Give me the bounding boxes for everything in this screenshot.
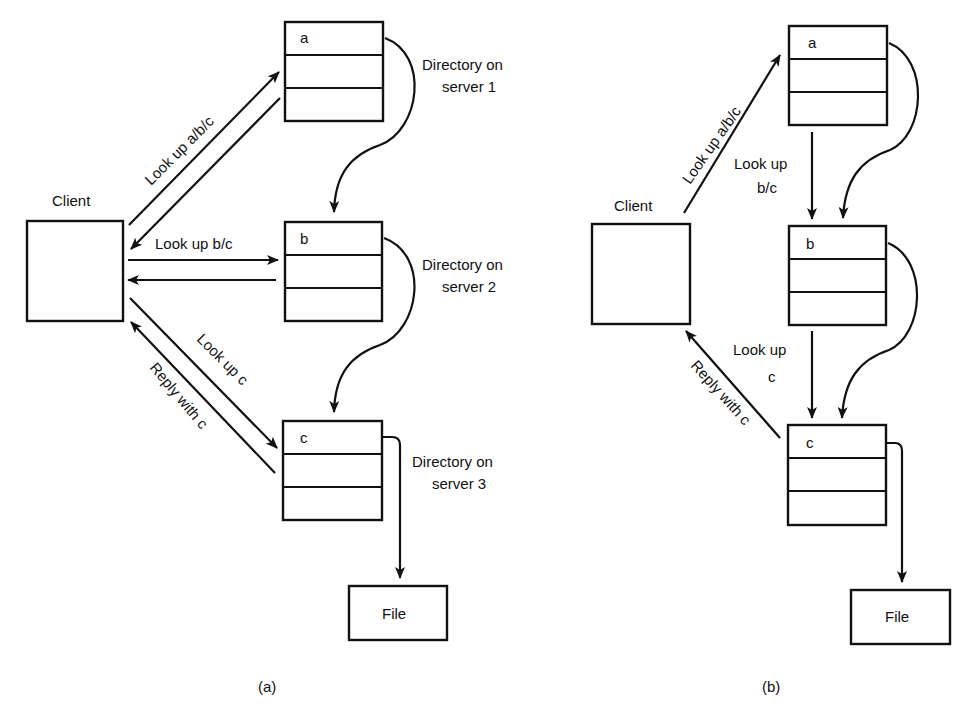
client-box-b bbox=[592, 224, 690, 324]
label-b-lookup-c-2: c bbox=[768, 368, 776, 385]
link-b-c-to-file bbox=[887, 443, 902, 582]
entry-c-b: c bbox=[806, 434, 814, 451]
link-c-to-file bbox=[383, 437, 400, 578]
client-label: Client bbox=[52, 192, 91, 209]
panel-a: Client a Directory on server 1 b Directo… bbox=[27, 22, 503, 695]
arrow-lookup-abc bbox=[129, 72, 279, 225]
client-box bbox=[27, 221, 123, 321]
directory-server-2: b bbox=[285, 222, 382, 321]
label-b-lookup-bc-2: b/c bbox=[757, 179, 778, 196]
directory-label-2b: server 2 bbox=[442, 278, 496, 295]
directory-server-1: a bbox=[285, 22, 383, 121]
file-label-b: File bbox=[885, 608, 909, 625]
directory-server-3: c bbox=[283, 421, 382, 520]
directory-b-b: b bbox=[789, 226, 886, 325]
caption-b: (b) bbox=[762, 678, 780, 695]
entry-a: a bbox=[300, 29, 309, 46]
label-b-lookup-abc: Look up a/b/c bbox=[679, 103, 745, 187]
client-label-b: Client bbox=[614, 197, 653, 214]
label-lookup-c: Look up c bbox=[194, 330, 252, 388]
directory-b-c: c bbox=[788, 425, 886, 525]
entry-c: c bbox=[300, 429, 308, 446]
directory-b-a: a bbox=[789, 26, 887, 125]
label-lookup-abc: Look up a/b/c bbox=[141, 112, 217, 188]
entry-b-b: b bbox=[806, 235, 814, 252]
directory-label-1a: Directory on bbox=[422, 56, 503, 73]
directory-label-2a: Directory on bbox=[422, 256, 503, 273]
label-lookup-bc: Look up b/c bbox=[155, 235, 233, 252]
directory-label-1b: server 1 bbox=[442, 78, 496, 95]
label-b-lookup-bc-1: Look up bbox=[734, 155, 787, 172]
file-label: File bbox=[382, 605, 406, 622]
label-b-lookup-c-1: Look up bbox=[733, 341, 786, 358]
directory-label-3a: Directory on bbox=[412, 453, 493, 470]
entry-b: b bbox=[300, 230, 308, 247]
label-b-reply-c: Reply with c bbox=[688, 357, 755, 429]
entry-a-b: a bbox=[808, 34, 817, 51]
directory-label-3b: server 3 bbox=[432, 475, 486, 492]
caption-a: (a) bbox=[258, 678, 276, 695]
panel-b: Client a b c File bbox=[592, 26, 950, 695]
